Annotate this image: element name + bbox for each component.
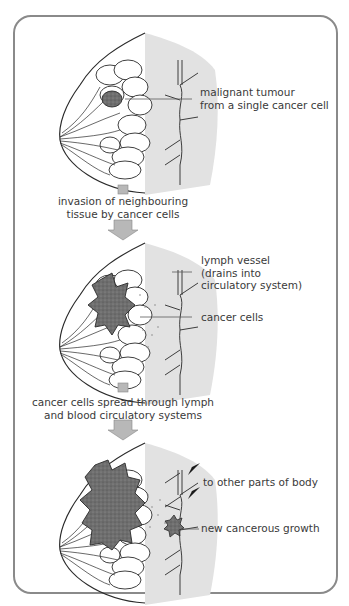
stage3-breast — [60, 443, 218, 605]
label-line: malignant tumour — [200, 86, 329, 99]
label-new-growth: new cancerous growth — [201, 522, 320, 535]
arrow-stem-2 — [118, 383, 128, 392]
label-line: circulatory system) — [201, 279, 302, 292]
label-other-parts: to other parts of body — [203, 476, 318, 489]
label-line: cancer cells — [201, 311, 263, 324]
malignant-tumour — [102, 91, 122, 107]
label-cancer-cells: cancer cells — [201, 311, 263, 324]
caption-invasion: invasion of neighbouring tissue by cance… — [48, 195, 198, 220]
arrow-head-1 — [108, 220, 138, 240]
stage1-breast — [60, 33, 218, 195]
stage2-breast — [60, 243, 218, 405]
label-line: (drains into — [201, 267, 302, 280]
caption-line: tissue by cancer cells — [48, 208, 198, 221]
label-line: lymph vessel — [201, 254, 302, 267]
label-malignant-tumour: malignant tumour from a single cancer ce… — [200, 86, 329, 111]
caption-line: invasion of neighbouring — [48, 195, 198, 208]
arrow-stem-1 — [118, 185, 128, 194]
caption-spread: cancer cells spread through lymph and bl… — [28, 396, 218, 421]
label-line: from a single cancer cell — [200, 99, 329, 112]
caption-line: cancer cells spread through lymph — [28, 396, 218, 409]
caption-line: and blood circulatory systems — [28, 409, 218, 422]
label-line: to other parts of body — [203, 476, 318, 489]
label-lymph-vessel: lymph vessel (drains into circulatory sy… — [201, 254, 302, 292]
label-line: new cancerous growth — [201, 522, 320, 535]
arrow-head-2 — [108, 420, 138, 440]
